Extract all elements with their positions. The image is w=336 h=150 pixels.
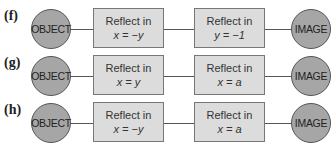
- step-equation: y = −1: [195, 28, 264, 42]
- step-title: Reflect in: [195, 14, 264, 28]
- step-title: Reflect in: [195, 61, 264, 75]
- step-equation: x = −y: [94, 122, 163, 136]
- object-node: OBJECT: [31, 103, 71, 143]
- flow-row-f: (f) OBJECT Reflect in x = −y Reflect in …: [0, 8, 336, 54]
- image-node: IMAGE: [291, 9, 331, 49]
- step-title: Reflect in: [94, 61, 163, 75]
- image-node: IMAGE: [291, 56, 331, 96]
- transform-step-1: Reflect in x = y: [93, 55, 164, 95]
- transform-step-2: Reflect in y = −1: [194, 8, 265, 48]
- row-label: (h): [4, 102, 21, 118]
- step-equation: x = a: [195, 75, 264, 89]
- object-node: OBJECT: [31, 56, 71, 96]
- step-title: Reflect in: [94, 14, 163, 28]
- step-title: Reflect in: [195, 108, 264, 122]
- row-label: (g): [4, 55, 20, 71]
- transform-step-2: Reflect in x = a: [194, 55, 265, 95]
- image-node: IMAGE: [291, 103, 331, 143]
- step-equation: x = a: [195, 122, 264, 136]
- flow-row-h: (h) OBJECT Reflect in x = −y Reflect in …: [0, 102, 336, 148]
- transform-step-2: Reflect in x = a: [194, 102, 265, 142]
- transform-step-1: Reflect in x = −y: [93, 102, 164, 142]
- object-node: OBJECT: [31, 9, 71, 49]
- flow-row-g: (g) OBJECT Reflect in x = y Reflect in x…: [0, 55, 336, 101]
- transform-step-1: Reflect in x = −y: [93, 8, 164, 48]
- row-label: (f): [4, 8, 18, 24]
- step-title: Reflect in: [94, 108, 163, 122]
- step-equation: x = y: [94, 75, 163, 89]
- step-equation: x = −y: [94, 28, 163, 42]
